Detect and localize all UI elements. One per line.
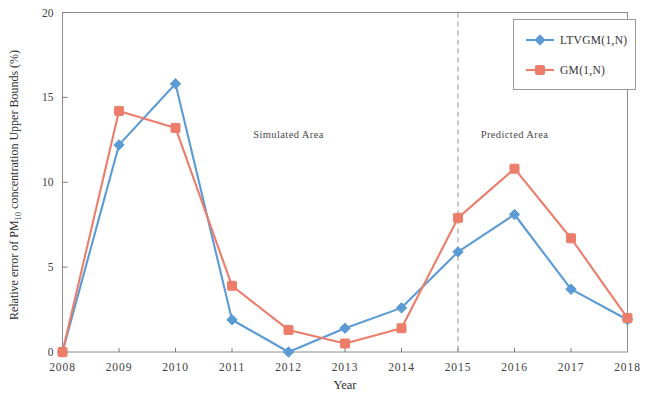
legend-box (514, 20, 636, 90)
x-axis-title: Year (333, 378, 357, 392)
series-line (63, 111, 628, 352)
data-point-marker-square (623, 314, 632, 323)
x-tick-label: 2014 (388, 361, 415, 373)
data-point-marker-square (341, 339, 350, 348)
y-tick-label: 0 (48, 346, 54, 358)
x-tick-label: 2010 (162, 361, 189, 373)
x-tick-label: 2016 (501, 361, 528, 373)
data-series-group (57, 79, 632, 358)
relative-error-line-chart: 05101520 2008200920102011201220132014201… (0, 0, 652, 395)
y-axis-title-before: Relative error of PM (7, 220, 21, 320)
y-tick-label: 20 (42, 7, 54, 19)
x-tick-label: 2013 (332, 361, 359, 373)
x-tick-label: 2009 (106, 361, 133, 373)
data-point-marker-square (536, 66, 545, 75)
x-tick-label: 2018 (614, 361, 641, 373)
data-point-marker-diamond (340, 323, 350, 333)
chart-container: 05101520 2008200920102011201220132014201… (0, 0, 652, 395)
y-tick-label: 15 (42, 91, 54, 103)
data-point-marker-square (454, 213, 463, 222)
x-tick-label: 2015 (445, 361, 472, 373)
data-point-marker-diamond (227, 315, 237, 325)
data-point-marker-square (510, 164, 519, 173)
legend-label: LTVGM(1,N) (560, 34, 627, 47)
y-axis-title: Relative error of PM10 concentration Upp… (7, 50, 23, 320)
legend: LTVGM(1,N)GM(1,N) (514, 20, 636, 90)
annotation-simulated-area: Simulated Area (253, 129, 324, 140)
data-point-marker-square (171, 123, 180, 132)
annotation-predicted-area: Predicted Area (481, 129, 549, 140)
y-axis: 05101520 (42, 7, 68, 359)
y-axis-title-subscript: 10 (13, 212, 23, 221)
data-point-marker-square (284, 325, 293, 334)
series-line (63, 84, 628, 352)
x-tick-label: 2008 (49, 361, 76, 373)
data-point-marker-square (115, 106, 124, 115)
data-point-marker-square (397, 324, 406, 333)
data-point-marker-square (228, 281, 237, 290)
data-point-marker-diamond (283, 347, 293, 357)
x-tick-label: 2012 (275, 361, 302, 373)
x-tick-label: 2017 (558, 361, 585, 373)
data-point-marker-square (58, 348, 67, 357)
data-point-marker-square (567, 234, 576, 243)
x-tick-label: 2011 (219, 361, 245, 373)
y-tick-label: 5 (48, 261, 54, 273)
y-tick-label: 10 (42, 176, 54, 188)
y-axis-title-after: concentration Upper Bounds (%) (7, 50, 21, 212)
series-ltvgm-1-n (57, 79, 632, 358)
series-gm-1-n (58, 106, 632, 356)
legend-label: GM(1,N) (560, 64, 605, 77)
